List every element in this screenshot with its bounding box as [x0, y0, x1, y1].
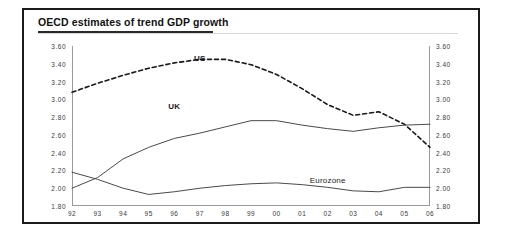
x-axis-tick: 96: [170, 210, 178, 217]
y-axis-tick-right: 3.40: [436, 60, 451, 67]
y-axis-tick-right: 2.20: [436, 167, 451, 174]
x-axis-tick: 93: [93, 210, 101, 217]
y-axis-tick-right: 2.60: [436, 131, 451, 138]
series-label-us: US: [194, 53, 206, 62]
y-axis-tick-left: 1.80: [51, 203, 66, 210]
x-axis-tick: 05: [400, 210, 408, 217]
y-axis-tick-left: 2.00: [51, 185, 66, 192]
y-axis-tick-right: 3.20: [436, 78, 451, 85]
series-line-us: [72, 59, 430, 147]
y-axis-tick-right: 2.00: [436, 185, 451, 192]
series-line-eurozone: [72, 172, 430, 194]
y-axis-tick-left: 3.00: [51, 96, 66, 103]
x-axis-tick: 01: [298, 210, 306, 217]
series-line-uk: [72, 121, 430, 189]
x-axis-tick: 06: [426, 210, 434, 217]
y-axis-tick-left: 2.80: [51, 114, 66, 121]
x-axis-tick: 94: [119, 210, 127, 217]
y-axis-tick-right: 1.80: [436, 203, 451, 210]
plot-wrapper: 3.603.603.403.403.203.203.003.002.802.80…: [0, 0, 506, 240]
x-axis-tick: 04: [375, 210, 383, 217]
x-axis-tick: 99: [247, 210, 255, 217]
y-axis-tick-left: 3.60: [51, 43, 66, 50]
y-axis-tick-left: 2.60: [51, 131, 66, 138]
x-axis-tick: 95: [145, 210, 153, 217]
y-axis-tick-left: 3.20: [51, 78, 66, 85]
series-label-uk: UK: [168, 102, 180, 111]
x-axis-tick: 92: [68, 210, 76, 217]
y-axis-tick-right: 3.60: [436, 43, 451, 50]
y-axis-tick-left: 2.20: [51, 167, 66, 174]
y-axis-tick-right: 2.40: [436, 149, 451, 156]
x-axis-tick: 97: [196, 210, 204, 217]
y-axis-tick-left: 3.40: [51, 60, 66, 67]
y-axis-tick-right: 3.00: [436, 96, 451, 103]
x-axis-tick: 02: [324, 210, 332, 217]
y-axis-tick-left: 2.40: [51, 149, 66, 156]
x-axis-tick: 00: [272, 210, 280, 217]
series-label-eurozone: Eurozone: [310, 176, 346, 185]
chart-figure: OECD estimates of trend GDP growth 3.603…: [0, 0, 506, 240]
series-layer: [72, 46, 430, 206]
x-axis-tick: 03: [349, 210, 357, 217]
x-axis-tick: 98: [221, 210, 229, 217]
y-axis-tick-right: 2.80: [436, 114, 451, 121]
